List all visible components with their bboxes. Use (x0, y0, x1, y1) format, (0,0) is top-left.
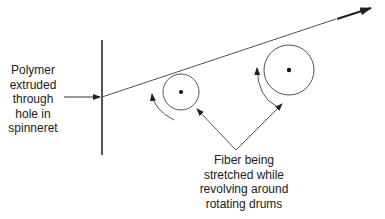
rotation-arrow-large-icon (257, 68, 276, 106)
polymer-label-line: through (4, 92, 62, 107)
polymer-label-line: hole in (4, 107, 62, 122)
drum-small-axle-icon (179, 90, 183, 94)
fiber-line (102, 19, 336, 97)
callout-arrow-small-drum (197, 109, 236, 150)
fiber-label-line: rotating drums (188, 197, 300, 212)
fiber-stretching-label: Fiber being stretched while revolving ar… (188, 153, 300, 211)
fiber-direction-arrow (337, 8, 371, 19)
polymer-label-line: Polymer (4, 63, 62, 78)
polymer-label-line: spinneret (4, 121, 62, 136)
fiber-label-line: revolving around (188, 182, 300, 197)
callout-arrow-large-drum (236, 104, 282, 150)
fiber-label-line: stretched while (188, 168, 300, 183)
polymer-extrusion-label: Polymer extruded through hole in spinner… (4, 63, 62, 136)
polymer-label-line: extruded (4, 78, 62, 93)
drum-large-axle-icon (287, 68, 291, 72)
fiber-label-line: Fiber being (188, 153, 300, 168)
